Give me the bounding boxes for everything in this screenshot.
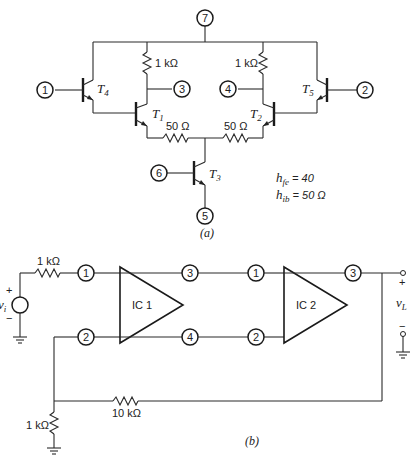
resistor-feedback-10k — [113, 397, 138, 405]
node-5: 5 — [197, 208, 213, 224]
ground-icon — [47, 448, 61, 454]
resistor-right-50 — [223, 134, 248, 142]
resistor-left-50 — [163, 134, 188, 142]
node-2: 2 — [357, 82, 373, 98]
resistor-ground-1k — [50, 412, 58, 434]
caption-a: (a) — [200, 226, 214, 240]
svg-text:IC 1: IC 1 — [132, 299, 152, 311]
resistor-input-1k — [35, 269, 60, 277]
ic1-pin-2: 2 — [78, 329, 94, 345]
svg-text:1: 1 — [42, 84, 48, 96]
svg-text:3: 3 — [187, 267, 193, 279]
ic1-pin-4: 4 — [182, 329, 198, 345]
svg-text:+: + — [399, 276, 405, 288]
svg-text:1 kΩ: 1 kΩ — [37, 255, 60, 267]
ic2-pin-1: 1 — [248, 265, 264, 281]
resistor-right-1k — [259, 52, 267, 74]
node-4: 4 — [220, 81, 236, 97]
label-vi: vi — [0, 297, 7, 314]
ic1-pin-1: 1 — [78, 265, 94, 281]
svg-text:5: 5 — [202, 210, 208, 222]
svg-text:1 kΩ: 1 kΩ — [26, 419, 49, 431]
resistor-left-1k — [143, 52, 151, 74]
svg-text:7: 7 — [202, 12, 208, 24]
node-1: 1 — [37, 82, 53, 98]
svg-text:−: − — [6, 312, 12, 324]
ic1-pin-3: 3 — [182, 265, 198, 281]
node-7: 7 — [197, 10, 213, 26]
svg-text:IC 2: IC 2 — [296, 299, 316, 311]
svg-text:4: 4 — [187, 331, 193, 343]
ground-icon — [13, 337, 27, 343]
output-terminal-minus — [401, 332, 406, 337]
label-t2: T2 — [250, 106, 262, 123]
label-t5: T5 — [302, 81, 314, 98]
param-hfe: hfe = 40 — [276, 170, 315, 187]
svg-text:6: 6 — [156, 167, 162, 179]
node-6: 6 — [151, 165, 167, 181]
svg-text:50 Ω: 50 Ω — [166, 120, 190, 132]
svg-text:2: 2 — [362, 84, 368, 96]
svg-text:10 kΩ: 10 kΩ — [112, 407, 141, 419]
label-t1: T1 — [152, 106, 164, 123]
svg-text:3: 3 — [179, 83, 185, 95]
svg-text:−: − — [399, 320, 405, 332]
svg-text:3: 3 — [350, 267, 356, 279]
voltage-source — [12, 297, 28, 313]
svg-text:1 kΩ: 1 kΩ — [235, 57, 258, 69]
ic2-pin-3: 3 — [345, 265, 361, 281]
svg-text:1: 1 — [83, 267, 89, 279]
svg-text:50 Ω: 50 Ω — [224, 120, 248, 132]
label-t3: T3 — [209, 166, 221, 183]
ground-icon — [396, 352, 410, 358]
param-hib: hib = 50 Ω — [276, 187, 326, 204]
output-terminal-plus — [401, 271, 406, 276]
svg-text:1: 1 — [253, 267, 259, 279]
svg-text:4: 4 — [225, 83, 231, 95]
caption-b: (b) — [245, 434, 259, 448]
svg-text:2: 2 — [253, 331, 259, 343]
svg-text:2: 2 — [83, 331, 89, 343]
node-3: 3 — [174, 81, 190, 97]
circuit-diagram: 7 1 T4 1 kΩ 3 T1 — [0, 0, 413, 459]
svg-text:1 kΩ: 1 kΩ — [155, 57, 178, 69]
figure-b: + − vi 1 kΩ 1 2 IC 1 3 4 — [0, 255, 410, 454]
label-t4: T4 — [97, 81, 109, 98]
ic2-pin-2: 2 — [248, 329, 264, 345]
figure-a: 7 1 T4 1 kΩ 3 T1 — [37, 10, 373, 240]
label-vl: vL — [396, 295, 407, 312]
svg-text:+: + — [6, 284, 12, 296]
